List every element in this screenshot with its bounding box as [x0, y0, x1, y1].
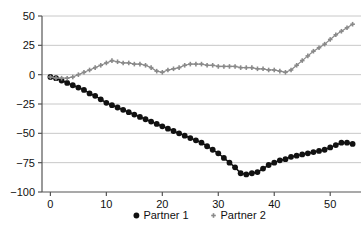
data-point [92, 93, 98, 99]
data-point [215, 150, 221, 156]
data-point [271, 160, 277, 166]
data-point [109, 102, 115, 108]
data-point [98, 96, 104, 102]
data-point [176, 130, 182, 136]
data-point [232, 164, 238, 170]
data-point [227, 160, 233, 166]
data-point [243, 172, 249, 178]
line-chart: −100−75−50−2502550 01020304050 Partner 1… [0, 0, 363, 230]
data-point [210, 147, 216, 153]
data-point [327, 145, 333, 151]
y-tick-label: −25 [16, 98, 35, 110]
data-point [143, 116, 149, 122]
data-point [299, 152, 305, 158]
data-point [238, 170, 244, 176]
data-point [70, 82, 76, 88]
data-point [339, 140, 345, 146]
data-point [333, 142, 339, 148]
x-tick-label: 50 [324, 198, 336, 210]
data-point [322, 147, 328, 153]
data-point [87, 91, 93, 97]
data-point [344, 140, 350, 146]
legend-label: Partner 1 [143, 209, 188, 221]
data-point [131, 112, 137, 118]
data-point [159, 123, 165, 129]
chart-background [0, 0, 363, 230]
data-point [182, 133, 188, 139]
data-point [260, 166, 266, 172]
data-point [148, 119, 154, 125]
data-point [137, 114, 143, 120]
data-point [171, 128, 177, 134]
y-tick-label: 50 [23, 10, 35, 22]
data-point [81, 87, 87, 93]
y-tick-label: −75 [16, 157, 35, 169]
data-point [154, 121, 160, 127]
data-point [294, 153, 300, 159]
data-point [249, 170, 255, 176]
data-point [221, 155, 227, 161]
data-point [165, 126, 171, 132]
data-point [115, 105, 121, 111]
data-point [103, 100, 109, 106]
data-point [283, 156, 289, 162]
data-point [126, 109, 132, 115]
legend-label: Partner 2 [221, 209, 266, 221]
data-point [204, 143, 210, 149]
y-tick-label: 0 [29, 69, 35, 81]
data-point [193, 137, 199, 143]
legend-marker [134, 213, 140, 219]
data-point [75, 85, 81, 91]
data-point [350, 141, 356, 147]
y-tick-label: −50 [16, 127, 35, 139]
data-point [120, 107, 126, 113]
data-point [187, 135, 193, 141]
chart-container: −100−75−50−2502550 01020304050 Partner 1… [0, 0, 363, 230]
x-tick-label: 0 [47, 198, 53, 210]
x-tick-label: 40 [268, 198, 280, 210]
data-point [316, 148, 322, 154]
data-point [311, 149, 317, 155]
data-point [255, 169, 261, 175]
y-tick-label: 25 [23, 39, 35, 51]
data-point [266, 162, 272, 168]
data-point [199, 140, 205, 146]
x-tick-label: 10 [100, 198, 112, 210]
y-tick-label: −100 [10, 186, 35, 198]
data-point [277, 157, 283, 163]
data-point [288, 154, 294, 160]
data-point [305, 150, 311, 156]
data-point [64, 80, 70, 86]
